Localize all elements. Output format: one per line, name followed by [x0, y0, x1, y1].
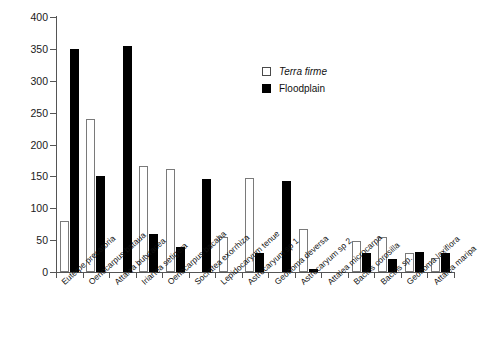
legend-swatch-floodplain — [262, 84, 271, 93]
legend-label-floodplain: Floodplain — [279, 83, 325, 94]
y-axis-tick-label-text: 250 — [2, 108, 48, 118]
bar-group — [162, 17, 189, 272]
legend: Terra firme Floodplain — [262, 63, 392, 97]
x-axis-tick — [189, 273, 190, 278]
bar-floodplain — [70, 49, 79, 272]
bar-group — [295, 17, 322, 272]
x-axis-tick — [56, 273, 57, 278]
x-axis-tick — [427, 273, 428, 278]
bar-group — [56, 17, 83, 272]
y-axis-tick-label: 350 — [0, 44, 48, 54]
bar-group — [427, 17, 454, 272]
x-axis-tick — [348, 273, 349, 278]
y-axis-tick-label-text: 400 — [2, 12, 48, 22]
y-axis-tick-label-text: 350 — [2, 44, 48, 54]
legend-swatch-terra-firme — [262, 67, 271, 76]
plot-area — [56, 17, 454, 272]
y-axis-tick-label: 400 — [0, 12, 48, 22]
bar-group — [401, 17, 428, 272]
legend-label-terra-firme: Terra firme — [279, 66, 327, 77]
y-axis-tick-label: 300 — [0, 76, 48, 86]
legend-item-floodplain: Floodplain — [262, 80, 392, 97]
x-axis-tick — [321, 273, 322, 278]
y-axis-tick-label: 50 — [0, 235, 48, 245]
x-axis-tick — [215, 273, 216, 278]
bar-group — [321, 17, 348, 272]
y-axis-tick-label: 250 — [0, 108, 48, 118]
y-axis-tick-label-text: 150 — [2, 171, 48, 181]
x-axis-tick — [454, 273, 455, 278]
x-axis-tick — [242, 273, 243, 278]
x-axis-tick — [136, 273, 137, 278]
bar-group — [109, 17, 136, 272]
x-axis-tick — [109, 273, 110, 278]
x-axis-tick — [162, 273, 163, 278]
bar-group — [83, 17, 110, 272]
y-axis-tick-label-text: 0 — [2, 267, 48, 277]
y-axis-tick-label-text: 300 — [2, 76, 48, 86]
x-axis-tick — [295, 273, 296, 278]
y-axis-tick-label-text: 200 — [2, 140, 48, 150]
bar-group — [189, 17, 216, 272]
y-axis-tick-label-text: 50 — [2, 235, 48, 245]
bar-group — [348, 17, 375, 272]
y-axis-tick-label: 200 — [0, 140, 48, 150]
x-axis-tick — [83, 273, 84, 278]
bar-terra-firme — [60, 221, 69, 272]
legend-item-terra-firme: Terra firme — [262, 63, 392, 80]
y-axis-tick-label: 100 — [0, 203, 48, 213]
x-axis-tick — [268, 273, 269, 278]
y-axis-tick-label-text: 100 — [2, 203, 48, 213]
y-axis-tick-label: 150 — [0, 171, 48, 181]
y-axis-tick-label: 0 — [0, 267, 48, 277]
x-axis-tick — [374, 273, 375, 278]
x-axis-tick — [401, 273, 402, 278]
